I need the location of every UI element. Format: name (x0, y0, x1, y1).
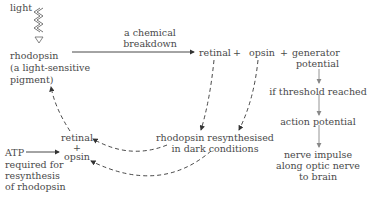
atp-desc-2: resynthesis (5, 170, 60, 181)
atp-desc-1: required for (5, 159, 63, 170)
retinal-label: retinal (199, 47, 231, 58)
potential-label: potential (296, 58, 339, 69)
rhodopsin-desc-2: pigment) (10, 74, 53, 85)
resynthesised-label: rhodopsin resynthesised (155, 132, 275, 143)
retinal-opsin-opsin: opsin (60, 151, 94, 162)
plus-sign-1: + (233, 47, 241, 58)
generator-label: generator (292, 47, 340, 58)
chemical-label: a chemical (112, 27, 188, 38)
action-potential-label: action potential (268, 116, 368, 127)
rhodopsin-label: rhodopsin (10, 50, 58, 61)
opsin-label: opsin (249, 47, 275, 58)
light-wave-icon (34, 8, 43, 43)
threshold-label: if threshold reached (268, 86, 368, 97)
atp-desc-3: of rhodopsin (5, 181, 66, 192)
nerve-impulse-label: nerve impulse (268, 149, 368, 160)
optic-nerve-label: along optic nerve (268, 160, 368, 171)
to-brain-label: to brain (268, 171, 368, 182)
rhodopsin-desc-1: (a light-sensitive (10, 62, 90, 73)
light-label: light (10, 2, 32, 13)
dark-conditions-label: in dark conditions (155, 143, 275, 154)
plus-sign-2: + (280, 47, 288, 58)
atp-label: ATP (5, 147, 24, 158)
breakdown-label: breakdown (112, 38, 188, 49)
